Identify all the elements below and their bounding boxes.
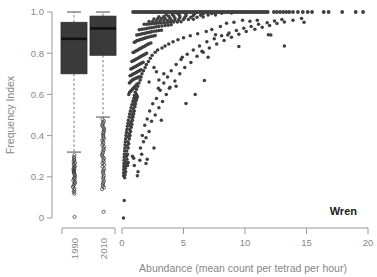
scatter-point (225, 22, 229, 26)
box-iqr (61, 22, 87, 74)
scatter-point (155, 97, 159, 101)
scatter-point (160, 46, 164, 50)
scatter-point (139, 75, 143, 79)
scatter-point (205, 30, 209, 34)
scatter-point (208, 46, 212, 50)
scatter-point (131, 154, 135, 158)
scatter-point (192, 48, 196, 52)
scatter-point (123, 143, 127, 147)
scatter-point (123, 149, 127, 153)
scatter-point (122, 155, 126, 159)
scatter-point-saturated (266, 10, 270, 14)
scatter-point (122, 216, 126, 220)
scatter-point (148, 109, 152, 113)
scatter-point (122, 174, 126, 178)
scatter-point (131, 100, 135, 104)
scatter-point (122, 165, 126, 169)
scatter-point (139, 146, 143, 150)
scatter-point (174, 63, 178, 67)
scatter-point (283, 44, 287, 48)
y-axis-title: Frequency Index (4, 75, 16, 154)
scatter-point (149, 57, 153, 61)
scatter-point (248, 20, 252, 24)
scatter-point-saturated (322, 10, 326, 14)
scatter-point (161, 100, 165, 104)
scatter-point (123, 146, 127, 150)
scatter-point (136, 84, 140, 88)
boxplot-panel: 19902010 (61, 12, 116, 259)
scatter-point (232, 21, 236, 25)
scatter-point (122, 171, 126, 175)
scatter-point-saturated (354, 10, 358, 14)
scatter-point (143, 124, 147, 128)
scatter-point (150, 119, 154, 123)
scatter-point (152, 66, 156, 70)
x-tick-label: 5 (181, 237, 186, 248)
scatter-point (163, 24, 167, 28)
box-iqr (90, 16, 116, 55)
scatter-point (178, 72, 182, 76)
scatter-point (205, 40, 209, 44)
scatter-point (126, 121, 129, 125)
scatter-point-saturated (306, 10, 310, 14)
scatter-point (165, 93, 169, 97)
scatter-point (300, 17, 304, 21)
scatter-point (189, 34, 193, 38)
scatter-point (122, 168, 126, 172)
scatter-point (157, 25, 161, 29)
scatter-point (143, 66, 147, 70)
scatter-point (183, 66, 187, 70)
x-axis-tick-labels: 05101520 (119, 237, 373, 248)
scatter-point (237, 45, 241, 49)
scatter-point (168, 86, 172, 90)
scatter-point (206, 56, 210, 60)
scatter-point (140, 152, 144, 156)
scatter-point (253, 28, 257, 32)
y-tick-label: 0 (39, 212, 44, 223)
scatter-point (174, 84, 178, 88)
scatter-point (127, 118, 131, 122)
scatter-point (149, 41, 153, 45)
scatter-point (160, 24, 164, 28)
scatter-point (123, 152, 127, 156)
scatter-point (137, 81, 141, 85)
scatter-point (141, 61, 145, 65)
scatter-point (291, 18, 295, 22)
scatter-point (153, 50, 157, 54)
x-tick-label: 0 (119, 237, 124, 248)
scatter-point (141, 134, 145, 138)
scatter-point (145, 63, 149, 67)
scatter-panel: 05101520 Abundance (mean count per tetra… (119, 10, 373, 274)
boxplot-1990 (61, 12, 87, 219)
y-axis: 00.20.40.60.81.0 Frequency Index (4, 6, 52, 223)
scatter-point (147, 130, 151, 134)
scatter-point (147, 60, 151, 64)
scatter-point (242, 27, 246, 31)
saturated-point-group (131, 10, 365, 14)
figure-container: 00.20.40.60.81.0 Frequency Index 1990201… (0, 0, 377, 277)
scatter-point (213, 37, 217, 41)
scatter-point (153, 34, 157, 38)
scatter-point (145, 117, 149, 121)
scatter-point (273, 19, 277, 23)
scatter-point (133, 164, 137, 168)
scatter-point (126, 125, 130, 129)
x-tick-label: 20 (363, 237, 374, 248)
scatter-point (145, 158, 149, 162)
chart-svg: 00.20.40.60.81.0 Frequency Index 1990201… (0, 0, 377, 277)
scatter-point (230, 35, 234, 39)
scatter-point (129, 106, 133, 110)
boxplot-category-label-1990: 1990 (69, 238, 80, 259)
scatter-point (144, 136, 148, 140)
scatter-point (302, 21, 306, 25)
scatter-point (151, 102, 155, 106)
scatter-point (136, 170, 140, 174)
scatter-point (152, 17, 156, 21)
scatter-point (130, 103, 134, 107)
boxplot-2010 (90, 12, 116, 213)
scatter-point (132, 97, 136, 101)
scatter-point (129, 109, 133, 113)
scatter-point (125, 128, 129, 132)
scatter-point (147, 80, 151, 84)
scatter-point (147, 20, 151, 24)
